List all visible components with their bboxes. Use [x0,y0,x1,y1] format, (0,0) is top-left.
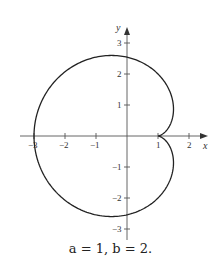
x-tick-label: −1 [90,140,100,150]
x-tick-label: −2 [59,140,69,150]
x-axis-label: x [202,140,208,151]
figure-caption: a = 1, b = 2. [0,241,221,256]
x-axis-arrow-icon [200,133,208,139]
y-axis-label: y [115,22,121,33]
y-tick-label: 2 [117,69,122,79]
x-tick-label: −3 [28,140,38,150]
axes: x y [20,22,208,240]
y-tick-label: −2 [112,193,122,203]
y-tick-label: −1 [112,162,122,172]
x-tick-label: 1 [156,140,161,150]
x-tick-label: 2 [187,140,192,150]
y-tick-label: −3 [112,224,122,234]
y-tick-label: 3 [117,38,122,48]
cardioid-plot: x y −3−2−112321−1−2−3 [0,0,221,240]
y-axis-arrow-icon [124,27,130,35]
y-tick-label: 1 [117,100,122,110]
